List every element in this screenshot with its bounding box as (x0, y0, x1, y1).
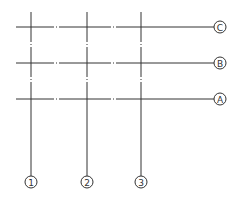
vertical-axis-1: 1 (25, 12, 37, 188)
axis-label: 3 (138, 178, 144, 188)
axis-label: A (217, 95, 224, 105)
vertical-axis-3: 3 (135, 12, 147, 188)
vertical-axis-2: 2 (81, 12, 93, 188)
axis-label: 1 (28, 178, 34, 188)
horizontal-axis-c: C (16, 21, 226, 33)
axis-label: C (217, 23, 223, 33)
axis-label: 2 (84, 178, 90, 188)
axis-grid-diagram: CBA123 (0, 0, 239, 197)
horizontal-axis-a: A (16, 93, 226, 105)
horizontal-axis-b: B (16, 57, 226, 69)
axis-label: B (217, 59, 223, 69)
